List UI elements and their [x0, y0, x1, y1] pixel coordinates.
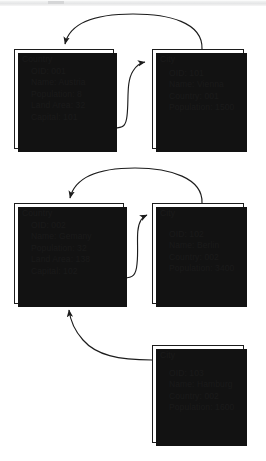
link-city3-to-country2 [69, 310, 152, 360]
object-class-label: Country [22, 208, 52, 218]
object-box-city-1[interactable]: City OID: 101 Name: Vienna Country: 001 … [152, 49, 244, 149]
object-attribute-list: OID: 101 Name: Vienna Country: 001 Popul… [169, 68, 240, 114]
link-country1-to-city1 [114, 62, 145, 128]
attribute-name: Name: Berlin [169, 240, 240, 251]
attribute-capital: Capital: 101 [31, 112, 110, 123]
attribute-name: Name: Austria [31, 77, 110, 88]
attribute-name: Name: Hamburg [169, 379, 240, 390]
link-city1-to-country1 [65, 14, 202, 49]
object-attribute-list: OID: 102 Name: Berlin Country: 002 Popul… [169, 229, 240, 275]
object-class-label: City [160, 350, 175, 360]
attribute-oid: OID: 001 [31, 66, 110, 77]
attribute-oid: OID: 101 [169, 68, 240, 79]
object-class-label: City [160, 54, 175, 64]
attribute-country: Country: 002 [169, 252, 240, 263]
object-attribute-list: OID: 103 Name: Hamburg Country: 002 Popu… [169, 368, 240, 414]
link-country2-to-city2 [124, 215, 147, 278]
attribute-oid: OID: 103 [169, 368, 240, 379]
attribute-land-area: Land Area: 32 [31, 100, 110, 111]
attribute-population: Population: 8 [31, 89, 110, 100]
attribute-population: Population: 3400 [169, 263, 240, 274]
object-box-country-2[interactable]: Country OID: 002 Name: Gemany Population… [14, 203, 124, 304]
object-box-city-2[interactable]: City OID: 102 Name: Berlin Country: 002 … [152, 203, 244, 304]
object-class-label: City [160, 208, 175, 218]
diagram-canvas: Country OID: 001 Name: Austria Populatio… [0, 0, 266, 461]
attribute-country: Country: 001 [169, 91, 240, 102]
attribute-population: Population: 1500 [169, 102, 240, 113]
attribute-oid: OID: 002 [31, 220, 120, 231]
object-box-city-3[interactable]: City OID: 103 Name: Hamburg Country: 002… [152, 345, 244, 443]
attribute-oid: OID: 102 [169, 229, 240, 240]
attribute-country: Country: 002 [169, 391, 240, 402]
link-city2-to-country2 [70, 168, 202, 203]
scan-artifact-band [0, 0, 266, 6]
attribute-land-area: Land Area: 138 [31, 254, 120, 265]
object-attribute-list: OID: 001 Name: Austria Population: 8 Lan… [31, 66, 110, 123]
object-class-label: Country [22, 54, 52, 64]
attribute-population: Population: 32 [31, 243, 120, 254]
object-box-country-1[interactable]: Country OID: 001 Name: Austria Populatio… [14, 49, 114, 149]
attribute-population: Population: 1600 [169, 402, 240, 413]
object-attribute-list: OID: 002 Name: Gemany Population: 32 Lan… [31, 220, 120, 277]
attribute-capital: Capital: 102 [31, 266, 120, 277]
attribute-name: Name: Vienna [169, 79, 240, 90]
attribute-name: Name: Gemany [31, 231, 120, 242]
